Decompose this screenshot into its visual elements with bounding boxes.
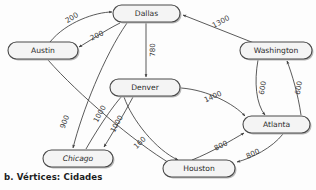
node-houston[interactable]: Houston [163, 160, 237, 179]
diagram-canvas: 200 200 780 1300 600 600 1400 800 800 90… [0, 0, 316, 190]
edge-weight-dallas-denver: 780 [148, 43, 157, 57]
edge-weight-atlanta-washington: 600 [293, 80, 304, 95]
node-denver[interactable]: Denver [110, 79, 182, 98]
node-washington[interactable]: Washington [240, 42, 314, 61]
edge-weight-washington-atlanta: 600 [257, 80, 268, 95]
node-label-houston: Houston [183, 164, 215, 173]
edge-weight-denver-houston: 160 [132, 134, 148, 150]
node-label-denver: Denver [131, 83, 159, 92]
node-label-dallas: Dallas [135, 9, 158, 18]
edge-weight-houston-atlanta: 800 [213, 138, 230, 152]
node-label-chicago: Chicago [63, 154, 94, 163]
edge-weight-austin-dallas: 200 [64, 10, 81, 25]
edge-weight-dallas-chicago: 900 [58, 113, 71, 129]
edge-weight-chicago-denver: 1000 [91, 103, 108, 124]
node-dallas[interactable]: Dallas [113, 5, 182, 24]
node-layer: Dallas Austin Washington Denver [8, 5, 314, 179]
figure-caption: b. Vértices: Cidades [4, 172, 102, 182]
edge-weight-dallas-austin: 200 [89, 28, 106, 42]
node-atlanta[interactable]: Atlanta [243, 116, 312, 135]
node-label-austin: Austin [31, 46, 55, 55]
edge-weight-atlanta-houston: 800 [245, 146, 262, 160]
edge-weight-washington-dallas: 1300 [211, 13, 232, 30]
node-label-atlanta: Atlanta [263, 120, 290, 129]
edge-weight-denver-atlanta: 1400 [203, 89, 224, 105]
node-chicago[interactable]: Chicago [43, 150, 115, 169]
city-graph-svg: 200 200 780 1300 600 600 1400 800 800 90… [0, 0, 316, 190]
edge-atlanta-houston [237, 134, 283, 162]
node-austin[interactable]: Austin [8, 42, 80, 61]
node-label-washington: Washington [254, 46, 299, 55]
